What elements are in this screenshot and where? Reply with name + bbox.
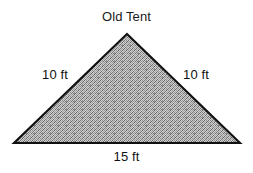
label-left-side: 10 ft	[31, 67, 79, 82]
triangle-outline	[14, 34, 240, 143]
triangle-shape	[0, 0, 253, 173]
label-right-side: 10 ft	[172, 67, 220, 82]
figure-container: Old Tent 10 ft 10 ft 15	[0, 0, 253, 173]
label-base-side: 15 ft	[0, 149, 253, 164]
